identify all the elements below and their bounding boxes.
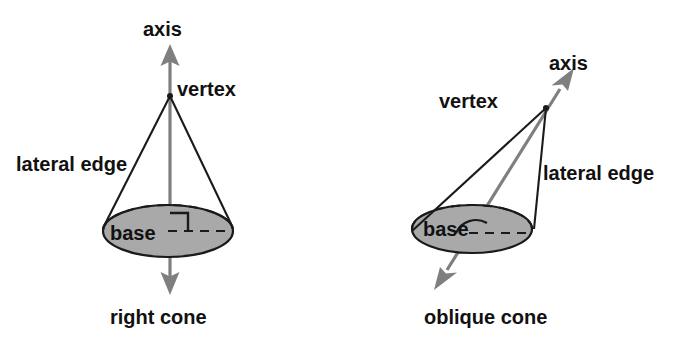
right-cone-group: axis vertex lateral edge base right cone	[16, 18, 236, 328]
right-cone-base-label: base	[110, 222, 156, 244]
oblique-cone-axis-label: axis	[549, 52, 588, 74]
right-cone-caption: right cone	[110, 306, 207, 328]
oblique-cone-vertex-label: vertex	[439, 90, 498, 112]
right-cone-vertex-point	[167, 93, 173, 99]
cone-diagram-svg: axis vertex lateral edge base right cone	[0, 0, 676, 339]
oblique-cone-caption: oblique cone	[424, 306, 547, 328]
right-cone-lateral-edge-label: lateral edge	[16, 153, 127, 175]
cone-diagram-figure: axis vertex lateral edge base right cone	[0, 0, 676, 339]
oblique-axis-arrowhead-down-icon	[434, 267, 457, 290]
oblique-cone-vertex-point	[543, 105, 549, 111]
right-cone-axis-label: axis	[143, 18, 182, 40]
right-cone-vertex-label: vertex	[177, 78, 236, 100]
oblique-cone-base-label: base	[423, 218, 469, 240]
oblique-cone-lateral-edge-label: lateral edge	[543, 162, 654, 184]
oblique-cone-group: axis vertex lateral edge base oblique co…	[412, 52, 654, 328]
